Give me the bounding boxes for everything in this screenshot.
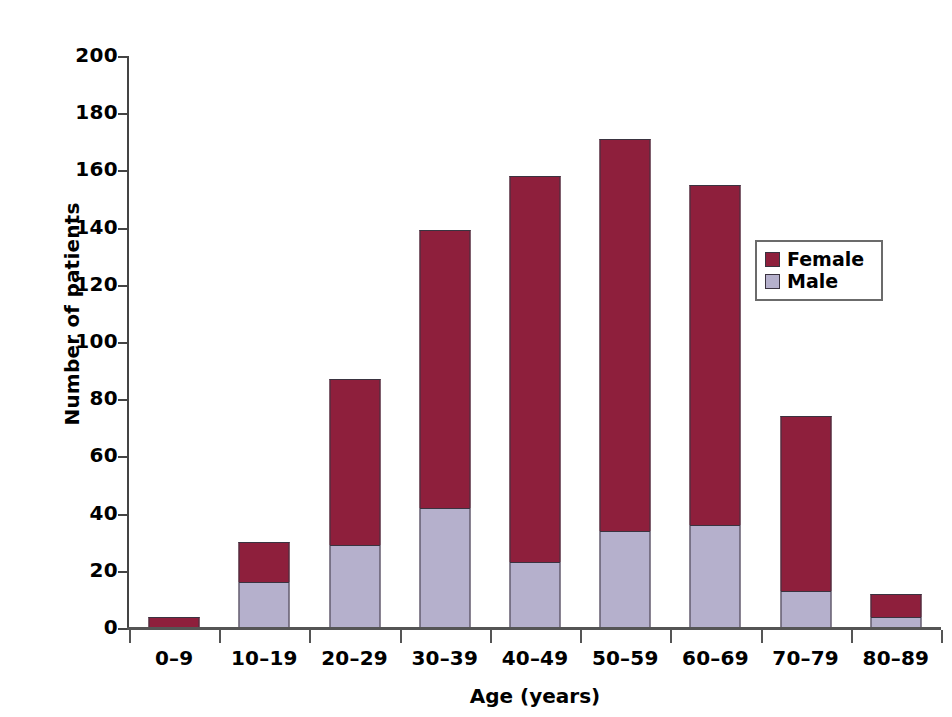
bar-segment-female[interactable] bbox=[329, 379, 380, 545]
x-tick-mark bbox=[761, 630, 763, 643]
x-tick-mark bbox=[490, 630, 492, 643]
bar-segment-female[interactable] bbox=[780, 416, 831, 590]
y-tick-mark bbox=[118, 571, 129, 573]
bar-group[interactable] bbox=[670, 56, 760, 628]
bar-group[interactable] bbox=[580, 56, 670, 628]
x-tick-mark bbox=[941, 630, 943, 643]
y-tick-mark bbox=[118, 113, 129, 115]
bar-segment-female[interactable] bbox=[509, 176, 560, 562]
bar-stack[interactable] bbox=[690, 185, 741, 628]
bar-segment-female[interactable] bbox=[419, 230, 470, 507]
y-tick-label: 0 bbox=[8, 615, 118, 639]
y-tick-label: 200 bbox=[8, 43, 118, 67]
bar-stack[interactable] bbox=[239, 542, 290, 628]
legend-item[interactable]: Female bbox=[765, 248, 873, 270]
bar-chart: Number of patients 020406080100120140160… bbox=[0, 0, 952, 717]
bar-segment-male[interactable] bbox=[239, 582, 290, 628]
y-tick-label: 140 bbox=[8, 215, 118, 239]
x-tick-mark bbox=[400, 630, 402, 643]
y-tick-mark bbox=[118, 342, 129, 344]
x-tick-mark bbox=[129, 630, 131, 643]
bar-segment-female[interactable] bbox=[239, 542, 290, 582]
bar-segment-female[interactable] bbox=[870, 594, 921, 617]
y-tick-label: 60 bbox=[8, 443, 118, 467]
legend-item[interactable]: Male bbox=[765, 270, 873, 292]
y-tick-mark bbox=[118, 285, 129, 287]
y-tick-mark bbox=[118, 228, 129, 230]
x-tick-mark bbox=[851, 630, 853, 643]
y-tick-mark bbox=[118, 514, 129, 516]
y-tick-label: 160 bbox=[8, 157, 118, 181]
x-tick-label: 80–89 bbox=[841, 646, 951, 670]
bar-group[interactable] bbox=[851, 56, 941, 628]
y-tick-mark bbox=[118, 56, 129, 58]
bar-stack[interactable] bbox=[600, 139, 651, 628]
bar-stack[interactable] bbox=[870, 594, 921, 628]
bar-segment-male[interactable] bbox=[780, 591, 831, 628]
y-tick-label: 20 bbox=[8, 558, 118, 582]
bar-segment-male[interactable] bbox=[329, 545, 380, 628]
legend-swatch-male bbox=[765, 274, 780, 289]
plot-area bbox=[129, 56, 941, 628]
legend: FemaleMale bbox=[755, 240, 883, 301]
y-tick-mark bbox=[118, 170, 129, 172]
bar-segment-female[interactable] bbox=[600, 139, 651, 531]
y-tick-label: 80 bbox=[8, 386, 118, 410]
y-tick-mark bbox=[118, 399, 129, 401]
bar-group[interactable] bbox=[761, 56, 851, 628]
y-tick-label: 100 bbox=[8, 329, 118, 353]
x-tick-mark bbox=[309, 630, 311, 643]
bar-stack[interactable] bbox=[780, 416, 831, 628]
legend-swatch-female bbox=[765, 252, 780, 267]
legend-label: Female bbox=[787, 250, 864, 269]
x-tick-mark bbox=[219, 630, 221, 643]
bar-group[interactable] bbox=[219, 56, 309, 628]
y-tick-mark bbox=[118, 456, 129, 458]
bar-group[interactable] bbox=[309, 56, 399, 628]
bar-group[interactable] bbox=[129, 56, 219, 628]
bar-segment-female[interactable] bbox=[690, 185, 741, 525]
y-tick-label: 120 bbox=[8, 272, 118, 296]
x-axis-title: Age (years) bbox=[129, 684, 941, 708]
x-tick-mark bbox=[670, 630, 672, 643]
bar-group[interactable] bbox=[400, 56, 490, 628]
bar-group[interactable] bbox=[490, 56, 580, 628]
bar-stack[interactable] bbox=[509, 176, 560, 628]
bar-stack[interactable] bbox=[329, 379, 380, 628]
legend-label: Male bbox=[787, 272, 838, 291]
y-tick-label: 40 bbox=[8, 501, 118, 525]
y-tick-label: 180 bbox=[8, 100, 118, 124]
x-axis-line bbox=[127, 627, 941, 630]
bar-segment-male[interactable] bbox=[690, 525, 741, 628]
bar-segment-male[interactable] bbox=[600, 531, 651, 628]
bar-segment-male[interactable] bbox=[419, 508, 470, 628]
bar-segment-male[interactable] bbox=[509, 562, 560, 628]
x-tick-mark bbox=[580, 630, 582, 643]
bar-stack[interactable] bbox=[419, 230, 470, 628]
